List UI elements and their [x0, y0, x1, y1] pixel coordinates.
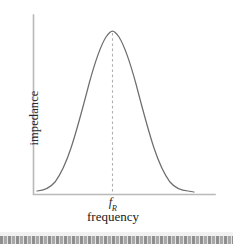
- impedance-resonance-curve: [37, 31, 194, 192]
- resonance-curve-figure: impedance fR frequency: [0, 0, 233, 232]
- strip-tick-band: [0, 236, 233, 244]
- y-axis-label: impedance: [27, 58, 42, 178]
- plot-axes: [34, 15, 216, 195]
- bottom-ruler-strip: [0, 232, 233, 244]
- x-axis-label: frequency: [63, 209, 163, 225]
